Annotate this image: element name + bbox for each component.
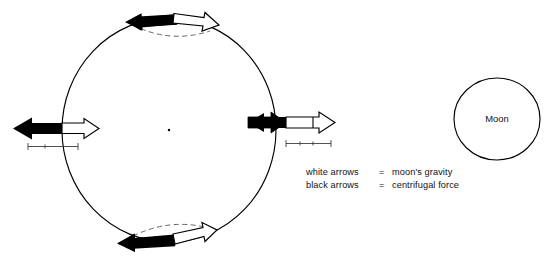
legend-row-0-equals: = (379, 167, 384, 177)
moon-label: Moon (485, 113, 508, 124)
legend-row-1-meaning: centrifugal force (392, 180, 459, 190)
legend-row-0-kind: white arrows (305, 167, 359, 177)
legend-row-1-equals: = (379, 180, 384, 190)
legend-row-1-kind: black arrows (306, 180, 359, 190)
tidal-force-diagram: Moon (0, 0, 557, 258)
earth-center-dot (168, 129, 171, 132)
legend-row-0-meaning: moon's gravity (392, 167, 453, 177)
